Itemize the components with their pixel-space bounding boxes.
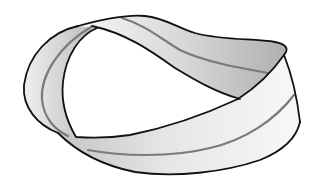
mobius-strip-figure bbox=[0, 0, 321, 190]
strip-left-surface bbox=[24, 26, 97, 137]
